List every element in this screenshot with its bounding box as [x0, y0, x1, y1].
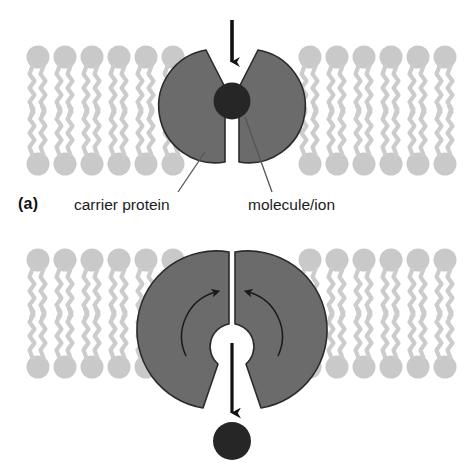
- bilayer-lower-right: [299, 106, 457, 176]
- panel-a-label: (a): [18, 195, 38, 213]
- panel-a: (a) carrier protein molecule/ion: [0, 0, 464, 238]
- molecule-sphere-b: [213, 422, 251, 460]
- bilayer-upper-right: [299, 46, 457, 116]
- panel-b-graphics: [0, 238, 464, 475]
- label-molecule-ion: molecule/ion: [248, 196, 335, 214]
- panel-b: (b): [0, 238, 464, 475]
- label-carrier-protein: carrier protein: [74, 196, 170, 214]
- facilitated-diffusion-figure: (a) carrier protein molecule/ion: [0, 0, 464, 475]
- molecule-sphere-a: [214, 83, 251, 120]
